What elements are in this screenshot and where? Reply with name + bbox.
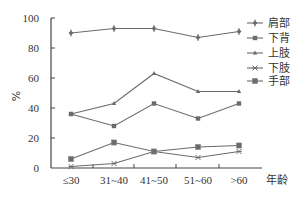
legend-item: 手部 — [247, 74, 290, 88]
legend: 肩部下背上肢下肢手部 — [247, 16, 290, 88]
legend-label: 下背 — [268, 31, 290, 45]
legend-item: 下肢 — [247, 61, 290, 75]
legend-item: 肩部 — [247, 16, 290, 30]
data-point-marker-icon — [112, 124, 116, 128]
series-line — [71, 74, 239, 115]
x-tick-label: 31~40 — [100, 174, 128, 186]
series-line — [71, 104, 239, 127]
legend-label: 上肢 — [268, 46, 290, 60]
legend-marker-icon — [253, 66, 258, 71]
x-axis-title: 年龄 — [266, 173, 288, 187]
legend-item: 上肢 — [247, 46, 290, 60]
y-axis-title: % — [10, 91, 23, 101]
y-tick-label: 100 — [23, 12, 40, 24]
data-point-marker-icon — [152, 101, 156, 105]
legend-label: 下肢 — [268, 61, 290, 75]
x-tick-label: ≤30 — [62, 174, 80, 186]
series-3 — [69, 71, 241, 116]
y-tick-label: 60 — [28, 72, 40, 84]
legend-label: 肩部 — [268, 16, 290, 30]
x-tick-label: 51~60 — [184, 174, 212, 186]
legend-item: 下背 — [247, 31, 290, 45]
series-5 — [68, 140, 241, 162]
data-point-marker-icon — [152, 71, 156, 75]
data-point-marker-icon — [196, 155, 201, 160]
axes: 020406080100≤3031~4041~5051~60>60年龄% — [10, 12, 288, 187]
series-group — [68, 25, 241, 169]
data-point-marker-icon — [111, 140, 116, 145]
data-point-marker-icon — [196, 116, 200, 120]
series-1 — [69, 25, 242, 41]
data-point-marker-icon — [237, 101, 241, 105]
x-tick-label: >60 — [230, 174, 248, 186]
legend-label: 手部 — [268, 74, 290, 88]
data-point-marker-icon — [68, 156, 73, 161]
legend-marker-icon — [252, 78, 257, 83]
data-point-marker-icon — [112, 161, 117, 166]
x-tick-label: 41~50 — [140, 174, 168, 186]
y-tick-label: 20 — [28, 132, 40, 144]
y-tick-label: 40 — [28, 102, 40, 114]
data-point-marker-icon — [151, 149, 156, 154]
line-chart: 020406080100≤3031~4041~5051~60>60年龄% 肩部下… — [0, 0, 301, 199]
y-tick-label: 80 — [28, 42, 40, 54]
data-point-marker-icon — [237, 149, 242, 154]
legend-marker-icon — [253, 36, 257, 40]
data-point-marker-icon — [195, 144, 200, 149]
data-point-marker-icon — [236, 143, 241, 148]
y-tick-label: 0 — [34, 162, 40, 174]
series-2 — [69, 101, 241, 128]
